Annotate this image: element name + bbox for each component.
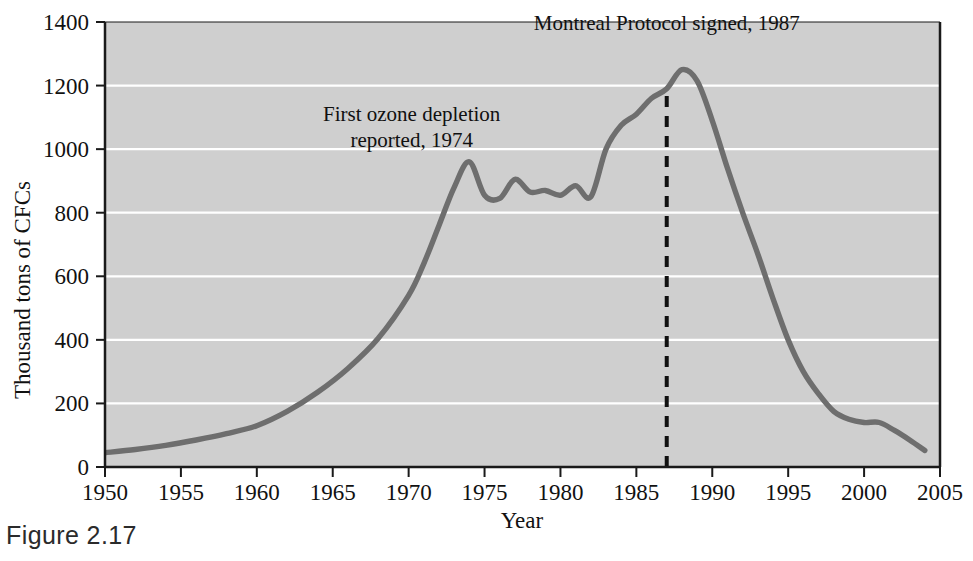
- x-tick-label: 1960: [234, 480, 280, 505]
- x-tick-label: 1990: [689, 480, 735, 505]
- y-tick-label: 0: [78, 455, 90, 480]
- x-tick-label: 1965: [310, 480, 356, 505]
- y-tick-label: 600: [55, 264, 90, 289]
- y-axis-tick-labels: 0200400600800100012001400: [43, 10, 89, 480]
- annotation-line: First ozone depletion: [323, 102, 501, 126]
- x-tick-label: 1995: [765, 480, 811, 505]
- x-tick-label: 1950: [82, 480, 128, 505]
- x-tick-label: 1985: [613, 480, 659, 505]
- x-tick-label: 1955: [158, 480, 204, 505]
- x-axis-tick-labels: 1950195519601965197019751980198519901995…: [82, 480, 963, 505]
- y-tick-label: 800: [55, 201, 90, 226]
- plot-background: [105, 22, 940, 467]
- y-tick-label: 400: [55, 328, 90, 353]
- annotation-montreal-protocol: Montreal Protocol signed, 1987: [534, 11, 800, 35]
- x-tick-label: 1975: [462, 480, 508, 505]
- y-tick-label: 200: [55, 391, 90, 416]
- y-axis-tick-marks: [96, 22, 105, 467]
- annotation-line: reported, 1974: [350, 128, 473, 152]
- figure-container: 0200400600800100012001400 19501955196019…: [0, 0, 973, 561]
- x-tick-label: 2005: [917, 480, 963, 505]
- y-tick-label: 1400: [43, 10, 89, 35]
- cfc-production-line-chart: 0200400600800100012001400 19501955196019…: [0, 0, 973, 561]
- y-axis-title: Thousand tons of CFCs: [10, 181, 35, 399]
- x-tick-label: 1970: [386, 480, 432, 505]
- x-axis-title: Year: [501, 508, 544, 533]
- x-tick-label: 2000: [841, 480, 887, 505]
- x-axis-tick-marks: [105, 467, 940, 477]
- y-tick-label: 1200: [43, 74, 89, 99]
- figure-caption: Figure 2.17: [6, 521, 137, 550]
- annotation-line: Montreal Protocol signed, 1987: [534, 11, 800, 35]
- y-tick-label: 1000: [43, 137, 89, 162]
- x-tick-label: 1980: [537, 480, 583, 505]
